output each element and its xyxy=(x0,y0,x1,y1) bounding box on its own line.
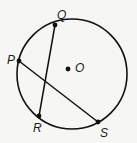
chord-qr xyxy=(39,25,55,116)
chord-ps xyxy=(19,61,98,122)
label-o: O xyxy=(75,61,84,75)
circle-diagram: Q P O R S xyxy=(0,0,137,143)
point-s xyxy=(96,120,101,125)
point-q xyxy=(53,23,58,28)
label-q: Q xyxy=(57,8,66,22)
point-p xyxy=(17,59,22,64)
label-r: R xyxy=(33,121,42,135)
circle xyxy=(17,19,127,129)
point-r xyxy=(37,114,42,119)
label-s: S xyxy=(100,126,108,140)
center-point-o xyxy=(66,67,71,72)
label-p: P xyxy=(7,53,15,67)
